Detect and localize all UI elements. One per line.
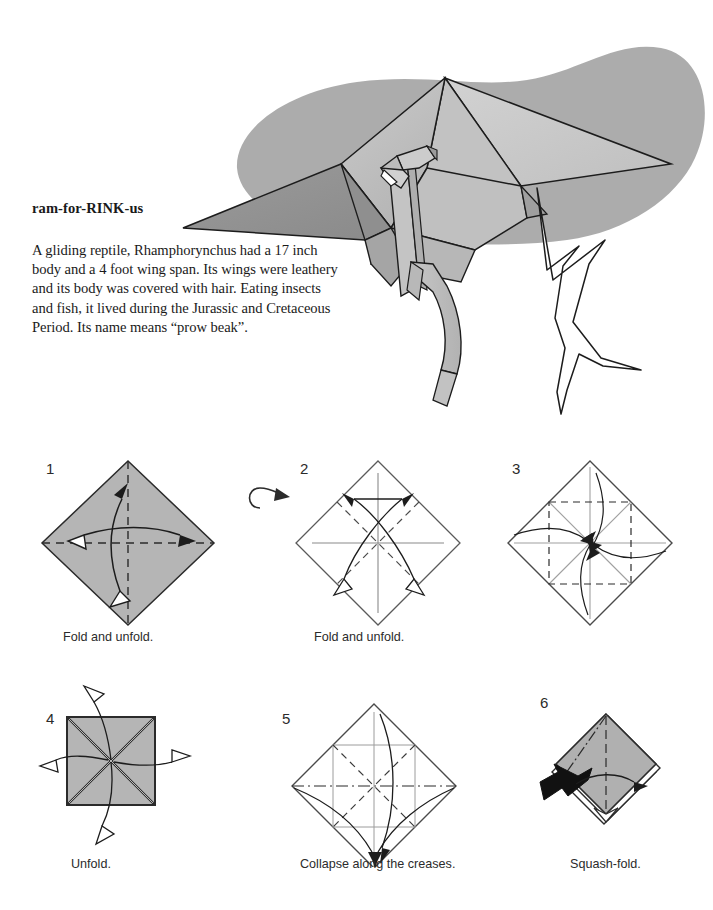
step-5: 5 Collapse along the creases. (272, 672, 497, 867)
page-root: ram-for-RINK-us A gliding reptile, Rhamp… (0, 0, 713, 910)
step-1-caption: Fold and unfold. (63, 630, 153, 644)
step-1-figure (36, 455, 246, 644)
step-6-caption: Squash-fold. (570, 857, 641, 871)
step-6: 6 Squash-fold. (528, 672, 708, 867)
step-6-number: 6 (540, 694, 548, 711)
step-3-number: 3 (512, 460, 520, 477)
step-2: 2 Fold and unfold. (290, 455, 490, 640)
step-4-caption: Unfold. (71, 857, 111, 871)
tail (407, 262, 461, 406)
step-3: 3 (500, 455, 700, 640)
step-4: 4 Unfold. (36, 672, 246, 867)
step-2-figure (290, 455, 490, 644)
step-1-number: 1 (46, 460, 54, 477)
step-1: 1 Fold and unfold. (36, 455, 246, 640)
folded-pterosaur-illustration (175, 18, 713, 428)
step-3-figure (500, 455, 700, 644)
step-5-figure (272, 672, 497, 871)
step-5-number: 5 (282, 710, 290, 727)
step-2-caption: Fold and unfold. (314, 630, 404, 644)
pronunciation-heading: ram-for-RINK-us (32, 200, 143, 217)
step-4-number: 4 (46, 710, 54, 727)
step-5-caption: Collapse along the creases. (300, 857, 455, 871)
step-6-figure (528, 672, 708, 871)
model-description: A gliding reptile, Rhamphorynchus had a … (32, 241, 342, 337)
step-4-figure (36, 672, 246, 871)
step-2-number: 2 (300, 460, 308, 477)
